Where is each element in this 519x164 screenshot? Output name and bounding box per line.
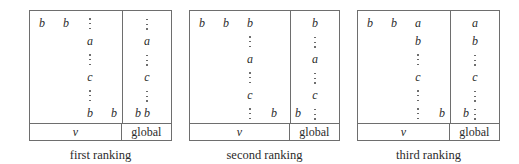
vertical-ellipsis-icon [417, 52, 418, 68]
vertical-ellipsis-icon [314, 70, 315, 86]
ranking-slot-dots [238, 32, 262, 49]
vertical-ellipsis-icon [314, 106, 315, 122]
vertical-ellipsis-icon [146, 88, 147, 104]
ranking-slot-b: b [214, 15, 238, 31]
vertical-ellipsis-icon [146, 16, 147, 32]
vertical-ellipsis-icon [474, 88, 475, 104]
global-slot-a: a [123, 33, 171, 49]
ranking-slot-b: b [358, 15, 382, 31]
ranking-row: c [30, 69, 122, 85]
vertical-ellipsis-icon [474, 106, 475, 122]
ranking-table: bbabcbb abc v global [357, 10, 500, 141]
global-slot-dots [451, 51, 499, 67]
vertical-ellipsis-icon [314, 34, 315, 50]
ranking-row: bbb [30, 105, 122, 121]
ranking-slot-c: c [238, 87, 262, 103]
table-body: bbbacbb bac [190, 11, 339, 123]
ranking-slot-b: b [54, 15, 78, 31]
ranking-row [30, 51, 122, 67]
vertical-ellipsis-icon [89, 88, 90, 104]
footer-label-local: v [358, 124, 450, 140]
ranking-slot-dots [238, 104, 262, 121]
footer-label-global: global [450, 124, 499, 140]
ranking-row: a [190, 51, 290, 67]
ranking-row [30, 87, 122, 103]
ranking-slot-b: b [406, 33, 430, 49]
ranking-slot-b: b [262, 105, 286, 121]
ranking-slot-b: b [78, 105, 102, 121]
panel-caption: third ranking [357, 148, 500, 163]
vertical-ellipsis-icon [89, 52, 90, 68]
table-footer: v global [30, 123, 171, 140]
vertical-ellipsis-icon [474, 52, 475, 68]
global-slot-dots [291, 33, 339, 49]
ranking-row [358, 51, 450, 67]
ranking-panel-first: bbacbbb acb v global first ranking [29, 10, 172, 163]
global-slot-b: b [123, 105, 171, 121]
ranking-row: b [358, 33, 450, 49]
table-body: bbabcbb abc [358, 11, 499, 123]
ranking-slot-dots [78, 86, 102, 103]
vertical-ellipsis-icon [249, 34, 250, 50]
footer-label-local: v [190, 124, 290, 140]
ranking-row: c [358, 69, 450, 85]
ranking-row: bb [358, 105, 450, 121]
ranking-row: bb [30, 15, 122, 31]
ranking-row: bba [358, 15, 450, 31]
ranking-slot-b: b [382, 15, 406, 31]
footer-label-local: v [30, 124, 122, 140]
local-ranking-cell: bbabcbb [358, 11, 451, 123]
table-footer: v global [358, 123, 499, 140]
ranking-row [190, 33, 290, 49]
global-slot-dots [123, 51, 171, 67]
global-slot-dots [291, 105, 339, 121]
vertical-ellipsis-icon [417, 106, 418, 122]
global-ranking-cell: acb [123, 11, 171, 123]
ranking-slot-dots [78, 50, 102, 67]
ranking-table: bbacbbb acb v global [29, 10, 172, 141]
ranking-slot-b: b [190, 15, 214, 31]
global-slot-dots [451, 105, 499, 121]
ranking-panel-third: bbabcbb abc v global third ranking [357, 10, 500, 163]
footer-label-global: global [290, 124, 339, 140]
global-slot-dots [123, 87, 171, 103]
footer-label-global: global [122, 124, 171, 140]
table-body: bbacbbb acb [30, 11, 171, 123]
global-slot-dots [123, 15, 171, 31]
ranking-slot-a: a [406, 15, 430, 31]
global-slot-dots [451, 87, 499, 103]
global-slot-c: c [451, 69, 499, 85]
ranking-slot-a: a [78, 33, 102, 49]
ranking-panel-second: bbbacbb bac v global second ranking [189, 10, 340, 163]
ranking-slot-dots [406, 104, 430, 121]
ranking-slot-dots [406, 50, 430, 67]
ranking-slot-c: c [406, 69, 430, 85]
global-slot-c: c [291, 87, 339, 103]
ranking-figure: bbacbbb acb v global first ranking bbbac… [0, 0, 519, 164]
global-slot-b: b [451, 33, 499, 49]
ranking-slot-c: c [78, 69, 102, 85]
ranking-row [358, 87, 450, 103]
local-ranking-cell: bbacbbb [30, 11, 123, 123]
vertical-ellipsis-icon [146, 52, 147, 68]
global-slot-b: b [291, 15, 339, 31]
ranking-row: bbb [190, 15, 290, 31]
ranking-slot-dots [238, 68, 262, 85]
global-slot-dots [291, 69, 339, 85]
vertical-ellipsis-icon [89, 16, 90, 32]
ranking-slot-b: b [238, 15, 262, 31]
panel-caption: first ranking [29, 148, 172, 163]
vertical-ellipsis-icon [249, 106, 250, 122]
ranking-row: c [190, 87, 290, 103]
ranking-table: bbbacbb bac v global [189, 10, 340, 141]
ranking-row [190, 69, 290, 85]
global-slot-a: a [291, 51, 339, 67]
ranking-slot-dots [406, 86, 430, 103]
vertical-ellipsis-icon [249, 70, 250, 86]
ranking-slot-a: a [238, 51, 262, 67]
table-footer: v global [190, 123, 339, 140]
ranking-slot-dots [78, 14, 102, 31]
local-ranking-cell: bbbacbb [190, 11, 291, 123]
global-slot-c: c [123, 69, 171, 85]
ranking-slot-b: b [30, 15, 54, 31]
